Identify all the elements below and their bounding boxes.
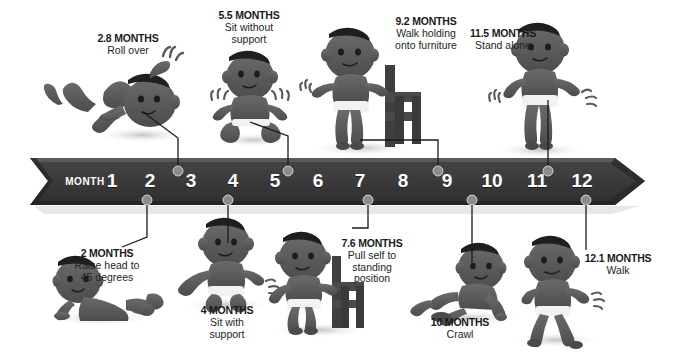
figure-sit-with-support	[178, 218, 279, 313]
tick-dot-7.6[interactable]	[363, 195, 374, 206]
milestone-months-9.2: 9.2 MONTHS	[378, 16, 474, 28]
month-tick-4[interactable]: 4	[228, 170, 239, 192]
tick-dot-5.5[interactable]	[283, 166, 294, 177]
month-tick-9[interactable]: 9	[442, 170, 453, 192]
milestone-months-12.1: 12.1 MONTHS	[568, 253, 668, 265]
month-tick-8[interactable]: 8	[398, 170, 409, 192]
figure-crawl	[410, 243, 518, 326]
milestone-desc-10-l1: Crawl	[414, 329, 506, 341]
milestone-desc-4-l1: Sit with	[180, 317, 274, 329]
figure-sit-without-support	[211, 51, 293, 147]
figure-roll-over	[44, 47, 188, 143]
milestone-desc-2.8-l1: Roll over	[78, 45, 178, 57]
milestone-months-7.6: 7.6 MONTHS	[326, 238, 418, 250]
tick-dot-2.8[interactable]	[173, 166, 184, 177]
milestone-label-5.5-months: 5.5 MONTHS Sit without support	[197, 10, 301, 45]
tick-dot-10[interactable]	[467, 195, 478, 206]
milestone-months-5.5: 5.5 MONTHS	[197, 10, 301, 22]
milestone-label-4-months: 4 MONTHS Sit with support	[180, 305, 274, 340]
milestone-months-4: 4 MONTHS	[180, 305, 274, 317]
milestone-label-2.8-months: 2.8 MONTHS Roll over	[78, 33, 178, 57]
milestone-months-11.5: 11.5 MONTHS	[458, 28, 548, 40]
milestone-desc-12.1-l1: Walk	[568, 265, 668, 277]
milestone-months-10: 10 MONTHS	[414, 317, 506, 329]
axis-label-month: MONTH	[65, 176, 105, 187]
month-tick-5[interactable]: 5	[270, 170, 281, 192]
milestone-label-7.6-months: 7.6 MONTHS Pull self to standing positio…	[326, 238, 418, 285]
month-tick-12[interactable]: 12	[571, 170, 592, 192]
month-tick-7[interactable]: 7	[355, 170, 366, 192]
milestone-label-12.1-months: 12.1 MONTHS Walk	[568, 253, 668, 277]
milestone-desc-5.5-l1: Sit without	[197, 22, 301, 34]
tick-dot-12.1[interactable]	[581, 195, 592, 206]
tick-dot-2[interactable]	[142, 195, 153, 206]
milestone-desc-5.5-l2: support	[197, 34, 301, 46]
month-tick-1[interactable]: 1	[107, 170, 118, 192]
milestone-desc-7.6-l3: position	[326, 273, 418, 285]
milestone-desc-11.5-l1: Stand alone	[458, 40, 548, 52]
milestone-desc-7.6-l1: Pull self to	[326, 250, 418, 262]
milestone-label-2-months: 2 MONTHS Raise head to 45 degrees	[58, 248, 156, 283]
milestone-label-11.5-months: 11.5 MONTHS Stand alone	[458, 28, 548, 52]
month-tick-11[interactable]: 11	[527, 170, 547, 192]
month-tick-2[interactable]: 2	[145, 170, 156, 192]
month-tick-3[interactable]: 3	[186, 170, 197, 192]
milestone-desc-4-l2: support	[180, 329, 274, 341]
month-tick-6[interactable]: 6	[313, 170, 324, 192]
milestone-label-10-months: 10 MONTHS Crawl	[414, 317, 506, 341]
milestone-desc-2-l1: Raise head to	[58, 260, 156, 272]
milestone-months-2: 2 MONTHS	[58, 248, 156, 260]
infographic-canvas: MONTH 1 2 3 4 5 6 7 8 9 10 11 12 2.8 MON…	[0, 0, 674, 364]
month-tick-10[interactable]: 10	[481, 170, 502, 192]
milestone-desc-2-l2: 45 degrees	[58, 272, 156, 284]
milestone-months-2.8: 2.8 MONTHS	[78, 33, 178, 45]
tick-dot-4[interactable]	[223, 195, 234, 206]
